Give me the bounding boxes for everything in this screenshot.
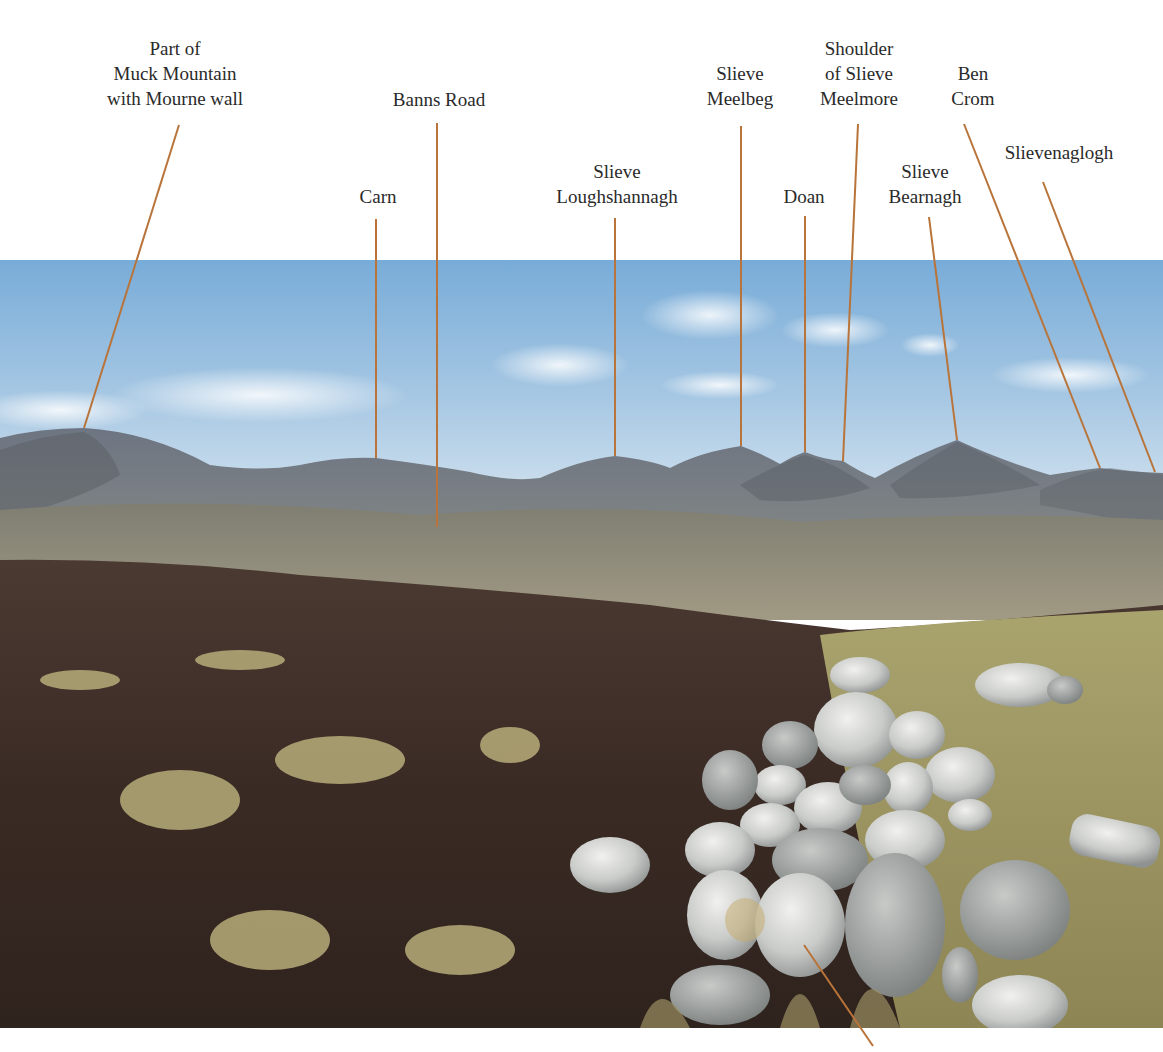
label-slieve-meelbeg: Slieve Meelbeg xyxy=(707,61,773,111)
label-slieve-meelmore-shoulder: Shoulder of Slieve Meelmore xyxy=(820,36,898,111)
label-banns-road: Banns Road xyxy=(393,87,485,112)
label-slieve-bearnagh: Slieve Bearnagh xyxy=(889,159,962,209)
panorama-photo xyxy=(0,260,1163,1028)
label-slievenaglogh: Slievenaglogh xyxy=(1005,140,1114,165)
label-doan: Doan xyxy=(783,184,824,209)
label-muck-mountain: Part of Muck Mountain with Mourne wall xyxy=(107,36,243,111)
label-carn: Carn xyxy=(360,184,397,209)
label-ben-crom: Ben Crom xyxy=(951,61,994,111)
label-slieve-loughshannagh: Slieve Loughshannagh xyxy=(556,159,677,209)
